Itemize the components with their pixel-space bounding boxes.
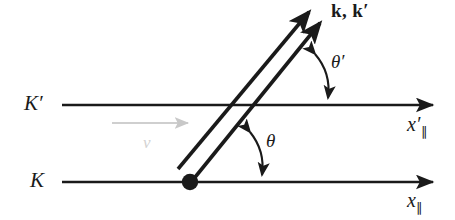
wave-vector-label-text: k, k′ xyxy=(331,0,369,21)
theta-prime-symbol: θ xyxy=(331,51,340,72)
theta-symbol: θ xyxy=(266,130,275,151)
physics-diagram-figure: K′ K x′∥ x∥ v k, k′ θ θ′ xyxy=(0,0,455,220)
axis-label-x-parallel: x∥ xyxy=(407,190,423,214)
wave-vector-arrow-primary xyxy=(192,23,320,181)
axis-label-x-prime-base: x xyxy=(407,113,416,135)
velocity-label: v xyxy=(143,134,151,151)
theta-label: θ xyxy=(266,131,275,150)
velocity-symbol: v xyxy=(143,133,151,152)
wave-vector-arrow-secondary xyxy=(178,12,309,169)
frame-label-k: K xyxy=(30,170,44,191)
axis-label-x-parallel-prime: x′∥ xyxy=(407,114,428,138)
frame-label-k-prime-text: K xyxy=(24,91,38,115)
axis-label-x-prime-subscript: ∥ xyxy=(421,124,428,139)
frame-label-k-prime-mark: ′ xyxy=(38,91,43,115)
frame-label-k-prime: K′ xyxy=(24,93,43,114)
wave-vector-label: k, k′ xyxy=(331,1,369,20)
frame-label-k-text: K xyxy=(30,168,44,192)
diagram-canvas xyxy=(0,0,455,220)
theta-prime-label: θ′ xyxy=(331,52,345,71)
emission-point-dot xyxy=(182,174,198,190)
axis-label-x-base: x xyxy=(407,189,416,211)
axis-label-x-prime-mark: ′ xyxy=(416,113,420,135)
theta-angle-arc xyxy=(250,132,263,175)
theta-prime-angle-arc xyxy=(315,54,329,98)
axis-label-x-subscript: ∥ xyxy=(416,200,423,215)
theta-prime-prime-mark: ′ xyxy=(340,51,344,72)
